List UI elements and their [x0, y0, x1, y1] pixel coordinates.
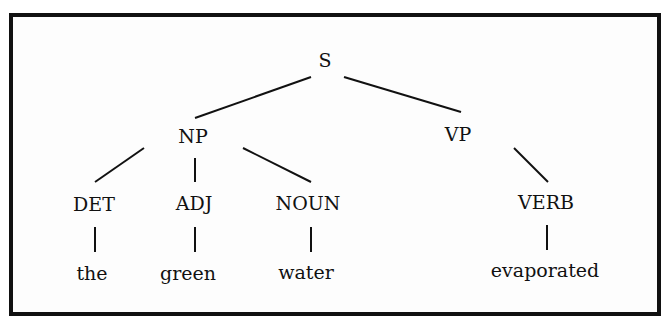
edge-np-det [95, 148, 144, 182]
edge-vp-verb [514, 148, 548, 182]
word-the: the [76, 264, 107, 283]
edge-s-vp [344, 77, 461, 112]
edge-s-np [195, 77, 311, 118]
node-verb: VERB [518, 193, 574, 212]
word-green: green [160, 264, 216, 283]
node-s: S [318, 51, 331, 70]
node-np: NP [178, 127, 207, 146]
node-noun: NOUN [276, 194, 341, 213]
word-water: water [278, 263, 334, 282]
word-evaporated: evaporated [491, 261, 599, 280]
node-adj: ADJ [176, 194, 213, 213]
edge-np-noun [243, 148, 311, 182]
node-det: DET [73, 195, 115, 214]
node-vp: VP [445, 125, 472, 144]
